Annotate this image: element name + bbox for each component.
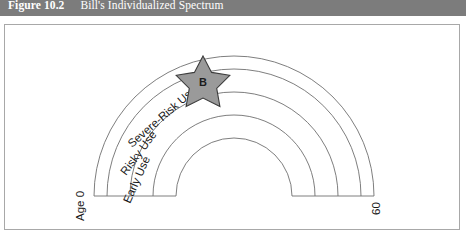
arc-spectrum-diagram: Severe-Risk Use Risky Use Early Use Age … xyxy=(5,25,459,229)
arc-risky-use-outer xyxy=(130,92,338,196)
figure-number: Figure 10.2 xyxy=(0,0,64,11)
figure-caption-bar: Figure 10.2 Bill's Individualized Spectr… xyxy=(0,0,466,16)
axis-end-label: 60 xyxy=(370,202,382,215)
star-marker-letter: B xyxy=(199,76,207,88)
arc-inner-boundary xyxy=(176,138,292,196)
band-label-severe-risk-use: Severe-Risk Use xyxy=(125,84,198,150)
figure-title: Bill's Individualized Spectrum xyxy=(64,0,223,11)
axis-start-label: Age 0 xyxy=(74,191,86,221)
figure-frame: Severe-Risk Use Risky Use Early Use Age … xyxy=(4,24,460,230)
